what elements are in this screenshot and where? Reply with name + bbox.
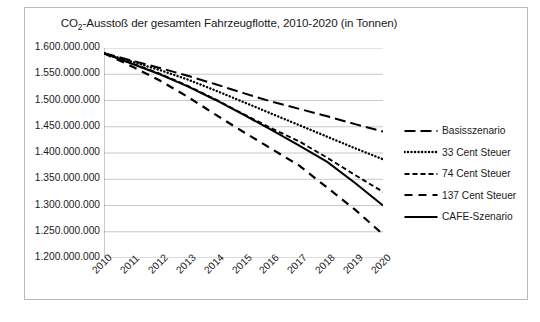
legend-key-icon xyxy=(404,126,438,136)
y-axis-tick-label: 1.300.000.000 xyxy=(14,199,100,210)
y-axis-tick-label: 1.400.000.000 xyxy=(14,146,100,157)
legend-item-label: 137 Cent Steuer xyxy=(442,190,516,201)
legend-item-label: CAFE-Szenario xyxy=(442,211,513,222)
series-line-1 xyxy=(104,53,383,131)
legend-item-4[interactable]: 137 Cent Steuer xyxy=(404,185,532,207)
legend-key-icon xyxy=(404,147,438,157)
y-axis-labels: 1.600.000.0001.550.000.0001.500.000.0001… xyxy=(14,48,100,258)
legend-item-1[interactable]: Basisszenario xyxy=(404,120,532,142)
chart-legend: Basisszenario33 Cent Steuer74 Cent Steue… xyxy=(404,120,532,228)
y-axis-tick-label: 1.450.000.000 xyxy=(14,120,100,131)
chart-title-prefix: CO xyxy=(61,16,78,29)
legend-item-label: Basisszenario xyxy=(442,125,505,136)
chart-title-rest: -Ausstoß der gesamten Fahrzeugflotte, 20… xyxy=(83,16,398,29)
legend-key-icon xyxy=(404,212,438,222)
legend-item-3[interactable]: 74 Cent Steuer xyxy=(404,163,532,185)
y-axis-tick-label: 1.550.000.000 xyxy=(14,67,100,78)
series-line-4 xyxy=(104,53,383,234)
chart-title: CO2-Ausstoß der gesamten Fahrzeugflotte,… xyxy=(24,16,434,32)
y-axis-tick-label: 1.250.000.000 xyxy=(14,225,100,236)
legend-key-icon xyxy=(404,169,438,179)
plot-area xyxy=(104,48,383,258)
legend-key-icon xyxy=(404,190,438,200)
chart-page: CO2-Ausstoß der gesamten Fahrzeugflotte,… xyxy=(0,0,540,322)
legend-item-label: 33 Cent Steuer xyxy=(442,147,511,158)
legend-item-5[interactable]: CAFE-Szenario xyxy=(404,206,532,228)
y-axis-tick-label: 1.350.000.000 xyxy=(14,172,100,183)
y-axis-tick-label: 1.500.000.000 xyxy=(14,94,100,105)
legend-item-2[interactable]: 33 Cent Steuer xyxy=(404,142,532,164)
y-axis-tick-label: 1.600.000.000 xyxy=(14,41,100,52)
y-axis-tick-label: 1.200.000.000 xyxy=(14,251,100,262)
x-axis-labels: 2010201120122013201420152016201720182019… xyxy=(104,260,383,302)
plot-svg xyxy=(104,48,383,258)
series-line-5 xyxy=(104,53,383,205)
legend-item-label: 74 Cent Steuer xyxy=(442,168,511,179)
